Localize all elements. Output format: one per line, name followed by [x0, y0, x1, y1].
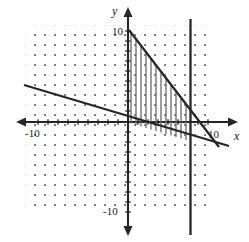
- y-axis-tick-neg10: -10: [103, 206, 118, 217]
- y-axis-label: y: [112, 5, 117, 17]
- dot-grid: [26, 26, 212, 212]
- x-axis-label: x: [234, 130, 239, 142]
- y-axis-tick-10: 10: [112, 26, 123, 37]
- graph-figure: y x 10 -10 10 -10: [0, 0, 249, 242]
- x-axis-tick-neg10: -10: [25, 128, 40, 139]
- x-axis-tick-10: 10: [208, 129, 219, 140]
- coordinate-plane-svg: [0, 0, 249, 242]
